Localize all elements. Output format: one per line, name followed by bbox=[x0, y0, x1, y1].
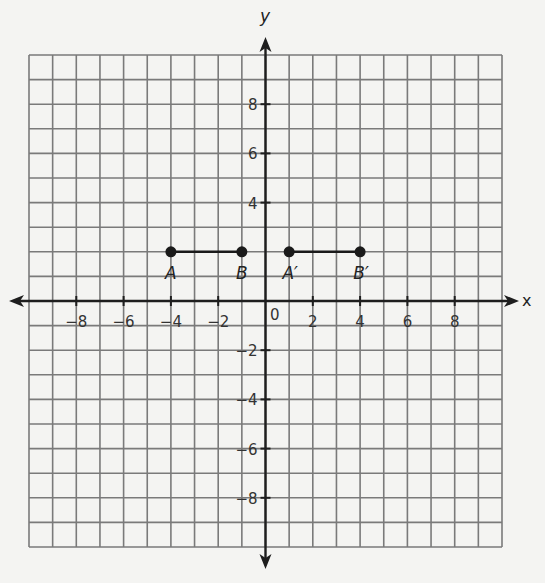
point-b bbox=[236, 246, 247, 257]
x-axis-label: x bbox=[522, 291, 531, 310]
y-tick-label: −8 bbox=[235, 490, 257, 508]
origin-label: 0 bbox=[270, 306, 280, 324]
x-tick-label: −8 bbox=[65, 313, 87, 331]
x-tick-label: 8 bbox=[450, 313, 460, 331]
coordinate-plane-svg: −8−6−4−22468864−2−4−6−8 ABA′B′ x y 0 bbox=[0, 0, 545, 583]
y-tick-label: 4 bbox=[248, 195, 258, 213]
point-label-a: A bbox=[164, 263, 177, 283]
point-label-b: B bbox=[236, 263, 248, 283]
point-a bbox=[165, 246, 176, 257]
x-tick-label: 2 bbox=[308, 313, 318, 331]
y-tick-label: −4 bbox=[235, 391, 257, 409]
y-tick-label: 8 bbox=[248, 96, 258, 114]
y-tick-label: −6 bbox=[235, 441, 257, 459]
coordinate-plane: −8−6−4−22468864−2−4−6−8 ABA′B′ x y 0 bbox=[0, 0, 545, 583]
y-tick-label: 6 bbox=[248, 145, 258, 163]
x-tick-label: −4 bbox=[160, 313, 182, 331]
x-tick-label: 4 bbox=[355, 313, 365, 331]
point-a-prime bbox=[284, 246, 295, 257]
point-b-prime bbox=[355, 246, 366, 257]
point-label-a-prime: A′ bbox=[281, 263, 298, 283]
x-tick-label: −2 bbox=[207, 313, 229, 331]
y-axis-label: y bbox=[259, 6, 271, 26]
y-tick-label: −2 bbox=[235, 342, 257, 360]
point-label-b-prime: B′ bbox=[353, 263, 369, 283]
x-tick-label: −6 bbox=[113, 313, 135, 331]
axes bbox=[9, 37, 519, 569]
x-tick-label: 6 bbox=[403, 313, 413, 331]
